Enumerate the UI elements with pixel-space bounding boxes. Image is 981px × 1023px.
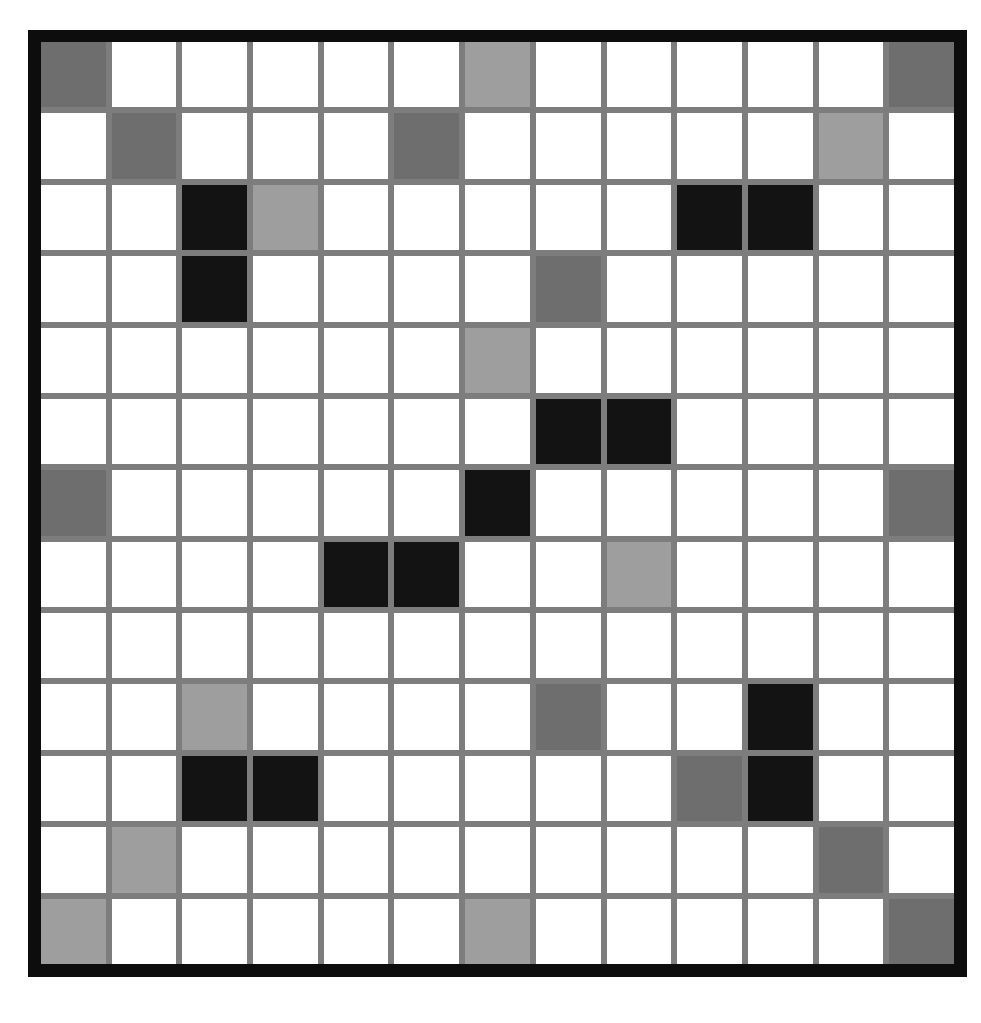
grid-cell[interactable] (819, 328, 884, 393)
grid-cell[interactable] (607, 756, 672, 821)
grid-cell[interactable] (41, 756, 106, 821)
grid-cell[interactable] (889, 613, 954, 678)
grid-cell[interactable] (324, 756, 389, 821)
grid-cell[interactable] (41, 899, 106, 964)
grid-cell[interactable] (182, 827, 247, 892)
grid-cell[interactable] (819, 542, 884, 607)
grid-cell[interactable] (394, 328, 459, 393)
grid-cell[interactable] (41, 185, 106, 250)
grid-cell[interactable] (112, 185, 177, 250)
grid-cell[interactable] (677, 42, 742, 107)
grid-cell[interactable] (394, 613, 459, 678)
grid-cell[interactable] (394, 185, 459, 250)
grid-cell[interactable] (394, 399, 459, 464)
grid-cell[interactable] (112, 256, 177, 321)
grid-cell[interactable] (182, 42, 247, 107)
grid-cell[interactable] (324, 827, 389, 892)
grid-cell[interactable] (394, 756, 459, 821)
grid-cell[interactable] (536, 684, 601, 749)
grid-cell[interactable] (607, 613, 672, 678)
grid-cell[interactable] (41, 328, 106, 393)
grid-cell[interactable] (536, 185, 601, 250)
grid-cell[interactable] (253, 542, 318, 607)
grid-cell[interactable] (41, 613, 106, 678)
grid-cell[interactable] (819, 684, 884, 749)
grid-cell[interactable] (182, 185, 247, 250)
grid-cell[interactable] (253, 684, 318, 749)
grid-cell[interactable] (819, 899, 884, 964)
grid-cell[interactable] (253, 256, 318, 321)
grid-cell[interactable] (465, 613, 530, 678)
grid-cell[interactable] (324, 256, 389, 321)
grid-cell[interactable] (253, 185, 318, 250)
grid-cell[interactable] (41, 684, 106, 749)
grid-cell[interactable] (112, 756, 177, 821)
grid-cell[interactable] (889, 470, 954, 535)
grid-cell[interactable] (253, 613, 318, 678)
grid-cell[interactable] (465, 399, 530, 464)
grid-cell[interactable] (465, 542, 530, 607)
grid-cell[interactable] (182, 899, 247, 964)
grid-cell[interactable] (324, 113, 389, 178)
grid-cell[interactable] (465, 256, 530, 321)
grid-cell[interactable] (182, 328, 247, 393)
grid-cell[interactable] (748, 185, 813, 250)
grid-cell[interactable] (182, 756, 247, 821)
grid-cell[interactable] (889, 399, 954, 464)
grid-cell[interactable] (465, 328, 530, 393)
grid-cell[interactable] (112, 613, 177, 678)
grid-cell[interactable] (253, 899, 318, 964)
grid-cell[interactable] (536, 42, 601, 107)
grid-cell[interactable] (748, 470, 813, 535)
grid-cell[interactable] (324, 328, 389, 393)
grid-cell[interactable] (819, 470, 884, 535)
grid-cell[interactable] (889, 328, 954, 393)
grid-cell[interactable] (41, 256, 106, 321)
grid-cell[interactable] (112, 399, 177, 464)
grid-cell[interactable] (536, 613, 601, 678)
grid-cell[interactable] (748, 542, 813, 607)
grid-cell[interactable] (324, 684, 389, 749)
grid-cell[interactable] (394, 684, 459, 749)
grid-cell[interactable] (41, 827, 106, 892)
grid-cell[interactable] (112, 899, 177, 964)
grid-cell[interactable] (41, 113, 106, 178)
grid-cell[interactable] (324, 470, 389, 535)
grid-cell[interactable] (607, 899, 672, 964)
grid-cell[interactable] (819, 185, 884, 250)
grid-cell[interactable] (819, 613, 884, 678)
grid-cell[interactable] (465, 827, 530, 892)
grid-cell[interactable] (465, 756, 530, 821)
grid-cell[interactable] (677, 542, 742, 607)
grid-cell[interactable] (182, 399, 247, 464)
grid-cell[interactable] (677, 113, 742, 178)
grid-cell[interactable] (607, 256, 672, 321)
grid-cell[interactable] (748, 328, 813, 393)
grid-cell[interactable] (677, 613, 742, 678)
grid-cell[interactable] (677, 185, 742, 250)
grid-cell[interactable] (607, 470, 672, 535)
grid-cell[interactable] (112, 328, 177, 393)
grid-cell[interactable] (889, 113, 954, 178)
grid-cell[interactable] (748, 899, 813, 964)
grid-cell[interactable] (182, 684, 247, 749)
grid-cell[interactable] (607, 827, 672, 892)
grid-cell[interactable] (465, 185, 530, 250)
grid-cell[interactable] (536, 899, 601, 964)
grid-cell[interactable] (465, 470, 530, 535)
grid-cell[interactable] (253, 470, 318, 535)
grid-cell[interactable] (394, 113, 459, 178)
grid-cell[interactable] (253, 399, 318, 464)
grid-cell[interactable] (536, 399, 601, 464)
grid-cell[interactable] (677, 756, 742, 821)
grid-cell[interactable] (536, 256, 601, 321)
grid-cell[interactable] (889, 684, 954, 749)
grid-cell[interactable] (819, 42, 884, 107)
grid-cell[interactable] (607, 684, 672, 749)
grid-cell[interactable] (607, 328, 672, 393)
grid-cell[interactable] (607, 42, 672, 107)
grid-cell[interactable] (889, 827, 954, 892)
grid-cell[interactable] (182, 470, 247, 535)
grid-cell[interactable] (677, 399, 742, 464)
grid-cell[interactable] (41, 542, 106, 607)
